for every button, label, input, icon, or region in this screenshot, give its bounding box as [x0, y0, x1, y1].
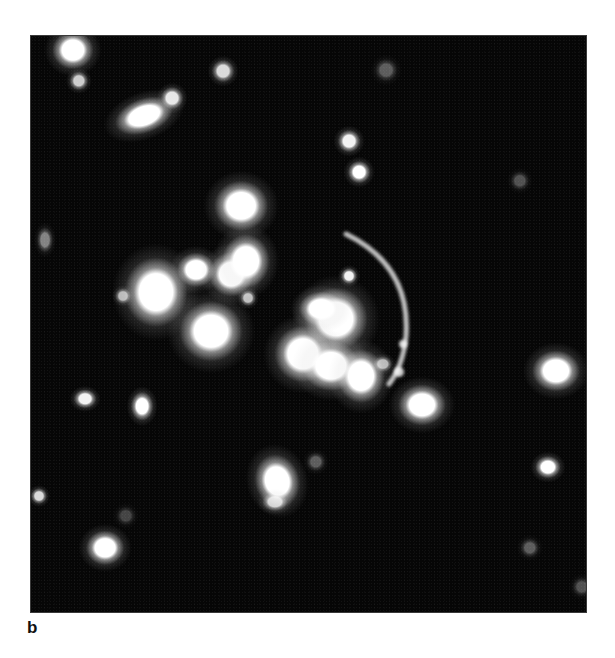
gravitational-arc [31, 36, 586, 612]
panel-label: b [27, 619, 37, 636]
galaxy-cluster-image [31, 36, 586, 612]
figure: b [0, 0, 615, 658]
